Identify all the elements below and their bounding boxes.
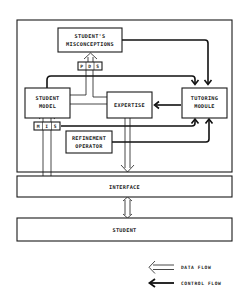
- legend: DATA FLOW CONTROL FLOW: [149, 261, 221, 287]
- diagram-canvas: STUDENT'S MISCONCEPTIONS P D S STUDENT M…: [0, 0, 246, 300]
- refinement-operator-label-line2: OPERATOR: [75, 143, 103, 149]
- control-arrow-studentmodel-to-tutoring: [47, 76, 199, 88]
- control-arrow-tutoring-to-expertise: [155, 102, 182, 109]
- expertise-label: EXPERTISE: [114, 102, 145, 108]
- refinement-operator-label-line1: REFINEMENT: [72, 135, 106, 141]
- pds-letter-s: S: [96, 64, 99, 69]
- node-interface: INTERFACE: [17, 176, 232, 197]
- tutoring-module-label-line1: TUTORING: [191, 95, 218, 101]
- data-lines-pds-connections: [70, 70, 107, 104]
- mis-letter-i: I: [45, 124, 48, 129]
- data-arrow-pds-to-misconceptions: [84, 53, 97, 62]
- student-model-label-line1: STUDENT: [36, 95, 60, 101]
- interface-label: INTERFACE: [109, 184, 140, 190]
- legend-control-flow-label: CONTROL FLOW: [181, 281, 221, 286]
- node-refinement-operator: REFINEMENT OPERATOR: [66, 131, 112, 153]
- misconceptions-label-line1: STUDENT'S: [75, 33, 106, 39]
- legend-control-flow-icon: [150, 279, 175, 287]
- misconceptions-label-line2: MISCONCEPTIONS: [66, 41, 114, 47]
- node-students-misconceptions: STUDENT'S MISCONCEPTIONS: [58, 28, 122, 52]
- tutoring-module-label-line2: MODULE: [194, 103, 215, 109]
- node-student-model: STUDENT MODEL: [25, 88, 70, 118]
- node-expertise: EXPERTISE: [107, 92, 152, 118]
- node-tutoring-module: TUTORING MODULE: [182, 88, 227, 118]
- pds-letter-d: D: [88, 64, 91, 69]
- control-arrow-misconceptions-to-tutoring: [122, 40, 212, 85]
- data-arrow-interface-student-bidirectional: [123, 197, 132, 218]
- legend-data-flow-label: DATA FLOW: [181, 265, 211, 270]
- legend-data-flow-icon: [149, 261, 174, 274]
- node-student: STUDENT: [17, 218, 232, 241]
- pds-letter-p: P: [80, 64, 83, 69]
- student-label: STUDENT: [113, 227, 137, 233]
- student-model-label-line2: MODEL: [39, 103, 56, 109]
- mis-letter-m: M: [37, 124, 40, 129]
- node-mis: M I S: [34, 122, 60, 130]
- node-pds: P D S: [78, 62, 102, 70]
- mis-letter-s: S: [54, 124, 57, 129]
